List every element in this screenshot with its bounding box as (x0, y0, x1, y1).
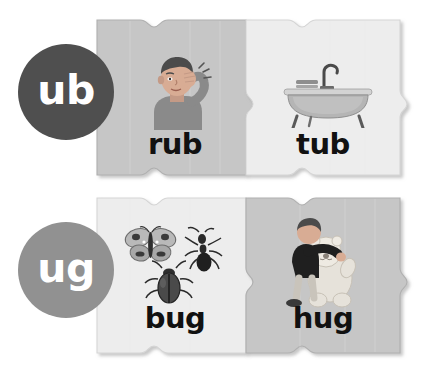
clawfoot-bathtub-illustration (280, 58, 376, 128)
badge-label: ug (37, 248, 95, 292)
man-rubbing-eye-illustration (142, 52, 216, 130)
beetle-icon (145, 261, 193, 303)
badge-label: ub (37, 70, 95, 114)
word-family-badge-ug: ug (18, 222, 114, 318)
ant-icon (185, 228, 222, 272)
word-label-tub: tub (268, 130, 378, 159)
child-hugging-teddy-bear-illustration (282, 216, 360, 308)
worksheet-canvas: ub (0, 0, 446, 383)
insects-butterfly-ant-beetle-illustration (116, 226, 228, 306)
puzzle-row-ub: ub (0, 12, 446, 187)
word-label-bug: bug (120, 304, 230, 333)
puzzle-row-ug: ug (0, 190, 446, 365)
butterfly-icon (123, 226, 178, 263)
word-label-rub: rub (120, 130, 230, 159)
word-label-hug: hug (268, 304, 378, 333)
word-family-badge-ub: ub (18, 44, 114, 140)
